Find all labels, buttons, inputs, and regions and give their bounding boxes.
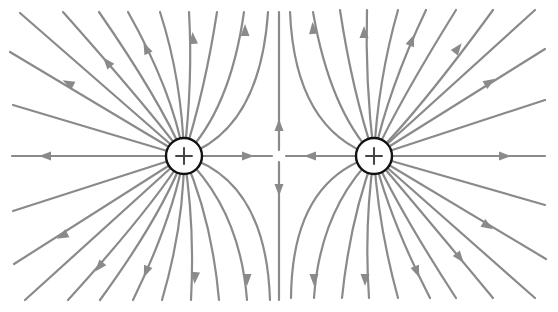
arrow-icon — [140, 265, 153, 279]
arrow-icon — [499, 152, 511, 161]
field-line — [374, 156, 456, 298]
field-line — [342, 156, 374, 298]
field-line — [184, 156, 192, 300]
field-line — [13, 105, 184, 156]
field-line — [13, 156, 184, 211]
field-line — [128, 12, 184, 156]
field-line — [374, 49, 545, 156]
field-line — [374, 10, 535, 156]
field-line — [133, 156, 184, 300]
field-arrows-group — [39, 22, 511, 286]
charge-left — [166, 138, 202, 174]
electric-field-diagram — [0, 0, 558, 312]
arrow-icon — [411, 265, 424, 279]
field-line — [68, 156, 184, 300]
arrow-icon — [39, 152, 51, 161]
field-line — [374, 156, 545, 205]
arrow-icon — [310, 274, 319, 286]
arrow-icon — [242, 152, 254, 161]
charge-right — [356, 138, 392, 174]
field-line — [184, 12, 190, 156]
arrow-icon — [275, 184, 284, 196]
arrow-icon — [451, 41, 465, 56]
arrow-icon — [275, 119, 284, 131]
field-lines-group — [10, 10, 546, 300]
field-line — [20, 13, 184, 156]
field-line — [184, 156, 219, 300]
arrow-icon — [139, 41, 152, 56]
arrow-icon — [304, 152, 316, 161]
field-line — [374, 156, 398, 298]
arrow-icon — [406, 33, 419, 47]
field-line — [25, 156, 184, 300]
field-line — [162, 156, 184, 300]
